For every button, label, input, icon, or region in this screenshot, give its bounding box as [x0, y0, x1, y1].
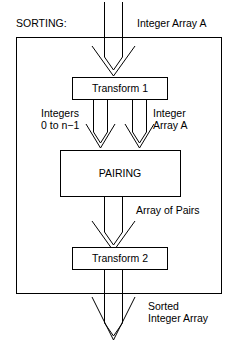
label-integer-array-a: Integer Array A — [153, 108, 187, 131]
arrow-intarray-to-pairing — [125, 100, 154, 148]
output-arrow-sorted-array — [92, 270, 135, 340]
arrow-pairs-to-transform2 — [92, 197, 135, 251]
label-integers-0-to-n-minus-1: Integers 0 to n−1 — [41, 108, 79, 131]
label-array-of-pairs: Array of Pairs — [136, 205, 200, 217]
sorting-flowchart: SORTING: Integer Array A Integers 0 to n… — [0, 0, 240, 346]
pairing-label: PAIRING — [60, 167, 180, 179]
arrow-integers-to-pairing — [86, 100, 115, 148]
transform1-label: Transform 1 — [72, 82, 168, 94]
label-sorted-integer-array: Sorted Integer Array — [148, 301, 208, 324]
diagram-title: SORTING: — [16, 18, 67, 30]
transform2-label: Transform 2 — [72, 252, 168, 264]
input-arrow-to-transform1 — [92, 2, 135, 76]
label-input-integer-array-a: Integer Array A — [137, 18, 206, 30]
